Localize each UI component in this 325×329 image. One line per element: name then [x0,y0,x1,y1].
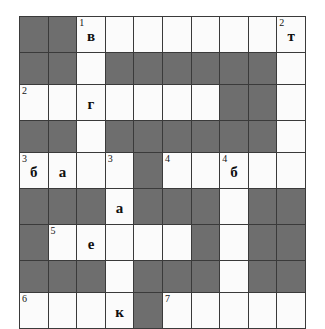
cell-letter [163,100,191,104]
crossword-open-cell[interactable] [48,292,77,328]
crossword-open-cell[interactable] [191,17,220,53]
crossword-open-cell[interactable] [277,53,306,85]
crossword-block-cell [134,53,163,85]
crossword-open-cell[interactable]: а [48,152,77,188]
crossword-block-cell [134,260,163,292]
crossword-open-cell[interactable] [277,292,306,328]
crossword-row [20,53,306,85]
crossword-open-cell[interactable]: 4б [220,152,249,188]
crossword-block-cell [248,120,277,152]
crossword-open-cell[interactable] [134,17,163,53]
crossword-open-cell[interactable] [220,188,249,224]
crossword-block-cell [248,53,277,85]
cell-letter [134,100,162,104]
crossword-open-cell[interactable]: 6 [20,292,49,328]
crossword-block-cell [191,120,220,152]
cell-letter [77,308,105,312]
crossword-open-cell[interactable] [277,152,306,188]
crossword-open-cell[interactable] [162,224,191,260]
cell-letter [106,240,134,244]
crossword-block-cell [134,292,163,328]
clue-number: 4 [165,153,170,164]
crossword-open-cell[interactable] [105,260,134,292]
crossword-open-cell[interactable] [248,17,277,53]
crossword-open-cell[interactable] [48,84,77,120]
cell-letter [277,66,305,70]
crossword-block-cell [48,260,77,292]
crossword-open-cell[interactable] [105,17,134,53]
crossword-block-cell [20,188,49,224]
cell-letter [20,308,48,312]
crossword-open-cell[interactable] [77,53,106,85]
crossword-block-cell [277,260,306,292]
crossword-open-cell[interactable] [105,84,134,120]
cell-letter [134,33,162,37]
crossword-open-cell[interactable] [162,17,191,53]
cell-letter [77,66,105,70]
cell-letter [106,274,134,278]
cell-letter [77,168,105,172]
cell-letter [220,33,248,37]
crossword-block-cell [105,120,134,152]
crossword-grid-body: 1в2т2г3ба344ба5е6к7 [20,17,306,329]
crossword-open-cell[interactable] [191,84,220,120]
crossword-open-cell[interactable]: а [105,188,134,224]
cell-letter [277,168,305,172]
crossword-row [20,260,306,292]
crossword-row [20,120,306,152]
cell-letter [49,100,77,104]
cell-letter: а [106,189,134,224]
cell-letter [220,240,248,244]
cell-letter [192,308,220,312]
crossword-grid: 1в2т2г3ба344ба5е6к7 [19,16,306,329]
crossword-open-cell[interactable] [162,84,191,120]
crossword-open-cell[interactable] [77,152,106,188]
crossword-open-cell[interactable]: 5 [48,224,77,260]
cell-letter [163,308,191,312]
crossword-open-cell[interactable] [220,224,249,260]
crossword-open-cell[interactable]: 2 [20,84,49,120]
crossword-open-cell[interactable] [277,120,306,152]
cell-letter: а [49,153,77,188]
cell-letter [106,168,134,172]
crossword-open-cell[interactable] [77,120,106,152]
crossword-open-cell[interactable] [134,224,163,260]
crossword-block-cell [248,260,277,292]
crossword-block-cell [162,53,191,85]
crossword-open-cell[interactable] [248,292,277,328]
cell-letter [277,100,305,104]
cell-letter [249,308,277,312]
crossword-block-cell [248,84,277,120]
cell-letter [249,33,277,37]
cell-letter [163,240,191,244]
crossword-open-cell[interactable] [134,84,163,120]
cell-letter: к [106,293,134,328]
crossword-open-cell[interactable] [191,292,220,328]
crossword-open-cell[interactable] [191,152,220,188]
crossword-open-cell[interactable]: 4 [162,152,191,188]
cell-letter: е [77,225,105,260]
crossword-block-cell [220,120,249,152]
crossword-open-cell[interactable] [77,292,106,328]
crossword-open-cell[interactable]: 1в [77,17,106,53]
cell-letter [220,204,248,208]
crossword-block-cell [77,188,106,224]
crossword-open-cell[interactable] [277,84,306,120]
crossword-open-cell[interactable] [220,260,249,292]
crossword-open-cell[interactable]: 3 [105,152,134,188]
crossword-block-cell [77,260,106,292]
crossword-open-cell[interactable]: 2т [277,17,306,53]
crossword-block-cell [20,224,49,260]
clue-number: 3 [108,153,113,164]
crossword-open-cell[interactable]: е [77,224,106,260]
crossword-open-cell[interactable] [220,17,249,53]
crossword-open-cell[interactable] [220,292,249,328]
crossword-open-cell[interactable]: г [77,84,106,120]
crossword-open-cell[interactable] [248,152,277,188]
crossword-open-cell[interactable]: 7 [162,292,191,328]
crossword-open-cell[interactable]: 3б [20,152,49,188]
crossword-open-cell[interactable] [105,224,134,260]
crossword-open-cell[interactable]: к [105,292,134,328]
crossword-block-cell [191,224,220,260]
clue-number: 3 [22,153,27,164]
